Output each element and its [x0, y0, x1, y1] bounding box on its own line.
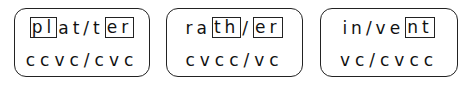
syllable-pattern: ccvc/cvc	[26, 50, 139, 70]
syllable-pattern: vc/cvcc	[340, 50, 438, 70]
segment: at/t	[58, 18, 103, 38]
word-card-invent: in/ve nt vc/cvcc	[320, 8, 458, 77]
boxed-segment: nt	[405, 17, 434, 38]
boxed-segment: th	[212, 17, 241, 38]
syllable-pattern: cvcc/vc	[185, 50, 283, 70]
word-rather: ra th / er	[185, 16, 283, 40]
boxed-segment: pl	[30, 17, 58, 38]
boxed-segment: er	[253, 17, 282, 38]
word-invent: in/ve nt	[342, 16, 435, 40]
segment: ra	[185, 18, 210, 38]
boxed-segment: er	[105, 17, 134, 38]
word-card-rather: ra th / er cvcc/vc	[166, 8, 303, 77]
word-card-platter: pl at/t er ccvc/cvc	[14, 8, 150, 77]
segment: /	[242, 18, 252, 38]
segment: in/ve	[342, 18, 404, 38]
word-platter: pl at/t er	[29, 16, 135, 40]
